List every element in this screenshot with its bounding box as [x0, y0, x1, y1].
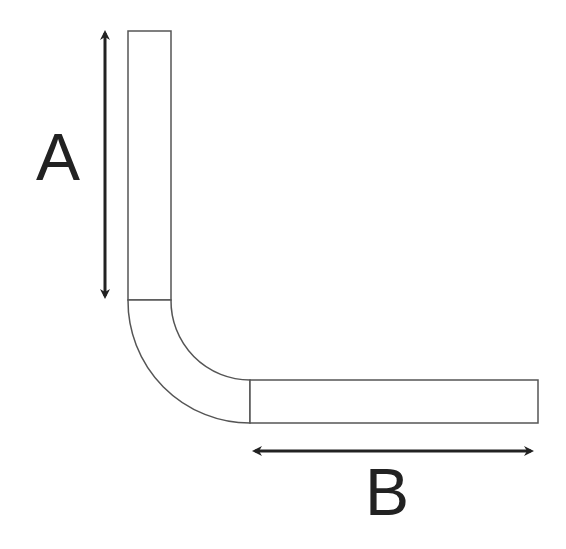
horizontal-pipe-segment — [250, 380, 538, 423]
dimension-label-a: A — [36, 120, 80, 194]
vertical-pipe-segment — [128, 31, 171, 300]
bent-pipe-diagram: A B — [0, 0, 566, 549]
pipe-bend-segment — [128, 300, 250, 423]
dimension-label-b: B — [365, 455, 409, 529]
